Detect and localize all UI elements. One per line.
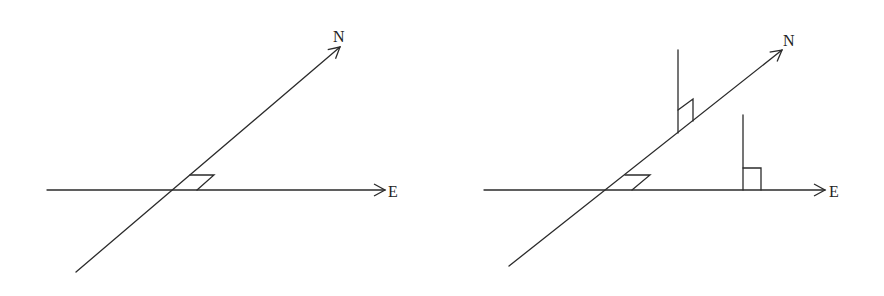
north-label: N — [783, 32, 795, 49]
east-label: E — [388, 183, 398, 200]
north-axis-arrow — [76, 47, 340, 272]
north-axis-arrow — [509, 50, 782, 266]
angle-marker — [190, 175, 214, 190]
east-label: E — [829, 183, 839, 200]
right-angle-marker-north — [678, 99, 693, 121]
north-label: N — [333, 28, 345, 45]
diagram-canvas: N E N E — [0, 0, 884, 296]
axes-diagram: N E N E — [0, 0, 884, 296]
right-angle-marker-east — [743, 168, 761, 190]
right-diagram: N E — [484, 32, 839, 266]
left-diagram: N E — [47, 28, 398, 272]
angle-marker — [625, 175, 650, 190]
